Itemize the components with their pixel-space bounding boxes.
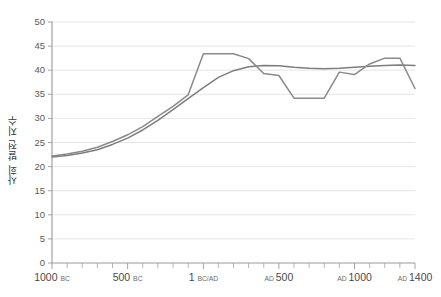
x-tick-label--500: 500 BC bbox=[113, 271, 143, 283]
social-development-index-chart: 사회 발전 지수 051015202530354045501000 BC500 … bbox=[0, 0, 441, 297]
y-tick-label-30: 30 bbox=[34, 112, 45, 123]
y-tick-label-50: 50 bbox=[34, 16, 45, 27]
y-tick-label-20: 20 bbox=[34, 161, 45, 172]
x-tick-label-1000: AD 1000 bbox=[337, 271, 372, 283]
y-tick-label-15: 15 bbox=[34, 185, 45, 196]
y-tick-label-5: 5 bbox=[40, 233, 45, 244]
x-tick-label-500: AD 500 bbox=[264, 271, 293, 283]
y-tick-label-35: 35 bbox=[34, 88, 45, 99]
series-line-1 bbox=[52, 54, 415, 156]
x-tick-label-1: 1 BC/AD bbox=[189, 271, 219, 283]
x-tick-label--1000: 1000 BC bbox=[34, 271, 70, 283]
y-tick-label-25: 25 bbox=[34, 137, 45, 148]
y-tick-label-45: 45 bbox=[34, 40, 45, 51]
y-tick-label-40: 40 bbox=[34, 64, 45, 75]
x-tick-label-1400: AD 1400 bbox=[398, 271, 433, 283]
y-tick-label-10: 10 bbox=[34, 209, 45, 220]
chart-plot-area: 051015202530354045501000 BC500 BC1 BC/AD… bbox=[0, 0, 441, 297]
y-tick-label-0: 0 bbox=[40, 257, 45, 268]
